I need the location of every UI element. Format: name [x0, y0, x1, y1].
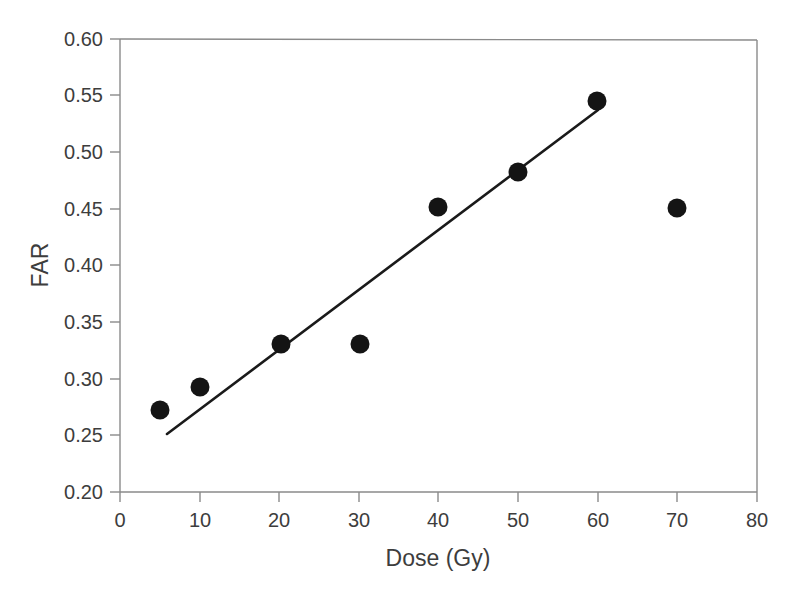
y-tick-label: 0.20: [64, 481, 103, 503]
data-point: [351, 335, 370, 354]
data-point: [191, 378, 210, 397]
y-tick-label: 0.60: [64, 28, 103, 50]
y-axis-tick-labels: 0.60 0.55 0.50 0.45 0.40 0.35 0.30 0.25 …: [64, 28, 103, 503]
x-tick-label: 60: [587, 509, 609, 531]
y-tick-label: 0.25: [64, 424, 103, 446]
data-point: [668, 199, 687, 218]
data-point: [588, 92, 607, 111]
scatter-plot: 0.60 0.55 0.50 0.45 0.40 0.35 0.30 0.25 …: [0, 0, 797, 599]
y-tick-label: 0.55: [64, 84, 103, 106]
y-axis-title: FAR: [27, 243, 53, 288]
y-tick-label: 0.50: [64, 141, 103, 163]
y-tick-label: 0.40: [64, 254, 103, 276]
data-point: [429, 198, 448, 217]
x-tick-label: 30: [348, 509, 370, 531]
y-tick-label: 0.45: [64, 198, 103, 220]
x-tick-label: 0: [114, 509, 125, 531]
y-tick-label: 0.30: [64, 368, 103, 390]
x-tick-label: 70: [666, 509, 688, 531]
x-tick-label: 20: [268, 509, 290, 531]
frame-top: [120, 39, 757, 40]
data-point: [509, 163, 528, 182]
x-tick-label: 40: [427, 509, 449, 531]
x-tick-label: 80: [746, 509, 768, 531]
x-axis-title: Dose (Gy): [386, 545, 491, 571]
data-point: [272, 335, 291, 354]
chart-figure: 0.60 0.55 0.50 0.45 0.40 0.35 0.30 0.25 …: [0, 0, 797, 599]
x-tick-label: 10: [189, 509, 211, 531]
x-tick-label: 50: [507, 509, 529, 531]
y-tick-label: 0.35: [64, 311, 103, 333]
data-point: [151, 401, 170, 420]
